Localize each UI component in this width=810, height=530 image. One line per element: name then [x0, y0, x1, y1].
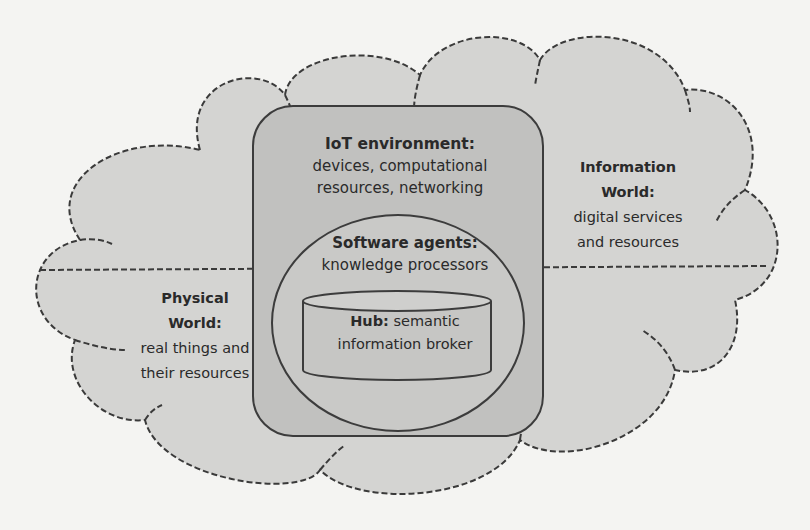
iot-environment-line1: devices, computational — [250, 155, 550, 177]
hub-label: Hub: semantic information broker — [300, 310, 510, 356]
software-agents-label: Software agents: knowledge processors — [300, 232, 510, 276]
hub-title: Hub: — [350, 313, 389, 329]
software-agents-line1: knowledge processors — [300, 254, 510, 276]
physical-world-line1: real things and — [110, 336, 280, 361]
physical-world-title-line1: Physical — [110, 286, 280, 311]
iot-environment-label: IoT environment: devices, computational … — [250, 133, 550, 199]
information-world-title-line2: World: — [548, 180, 708, 205]
information-world-title-line1: Information — [548, 155, 708, 180]
hub-title-rest: semantic — [389, 313, 460, 329]
hub-line2: information broker — [300, 333, 510, 356]
iot-environment-title: IoT environment: — [250, 133, 550, 155]
software-agents-title: Software agents: — [300, 232, 510, 254]
information-world-label: Information World: digital services and … — [548, 155, 708, 255]
iot-environment-line2: resources, networking — [250, 177, 550, 199]
physical-world-line2: their resources — [110, 361, 280, 386]
physical-world-label: Physical World: real things and their re… — [110, 286, 280, 386]
information-world-line1: digital services — [548, 205, 708, 230]
information-world-line2: and resources — [548, 230, 708, 255]
physical-world-title-line2: World: — [110, 311, 280, 336]
